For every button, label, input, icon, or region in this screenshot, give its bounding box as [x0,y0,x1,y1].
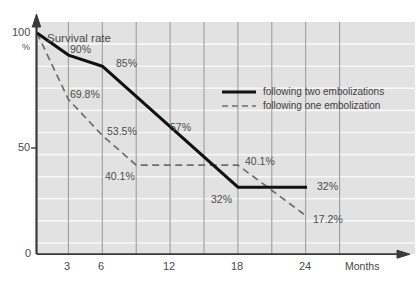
plot-area-background [37,22,415,254]
data-label-dashed-40-1-left: 40.1% [105,171,135,182]
x-axis-label-18: 18 [231,261,243,272]
y-axis-label-100: 100 [12,27,30,38]
x-axis-label-3: 3 [64,261,70,272]
x-axis-label-6: 6 [98,261,104,272]
data-label-solid-32-mid: 32% [211,194,232,205]
legend-label-two-embolizations: following two embolizations [263,87,384,97]
y-axis-unit-percent: % [22,43,30,52]
data-label-dashed-17-2: 17.2% [313,214,343,225]
survival-rate-chart-figure: 100 % 50 0 3 6 12 18 24 Months Survival … [0,0,420,283]
data-label-dashed-69-8: 69.8% [70,89,100,100]
y-axis-label-50: 50 [18,142,30,153]
data-label-dashed-53-5: 53.5% [107,126,137,137]
data-label-solid-32-right: 32% [317,181,338,192]
data-label-solid-90: 90% [70,44,91,55]
x-axis-label-12: 12 [163,261,175,272]
x-axis-title-months: Months [345,261,379,272]
data-label-solid-85: 85% [116,58,137,69]
x-axis-label-24: 24 [299,261,311,272]
legend-label-one-embolization: following one embolization [263,101,380,111]
y-axis-label-0: 0 [25,248,31,259]
y-axis-arrowhead [32,14,40,27]
data-label-solid-57: 57% [170,122,191,133]
data-label-dashed-40-1-right: 40.1% [245,156,275,167]
